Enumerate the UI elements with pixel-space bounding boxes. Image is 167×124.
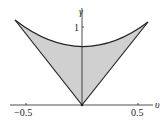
chart: γ 1 υ −0.5 0.5 <box>0 0 167 124</box>
plot-area <box>0 0 167 124</box>
x-tick-label-pos: 0.5 <box>131 108 144 118</box>
y-axis-label: γ <box>79 7 83 17</box>
x-axis-label: υ <box>155 100 160 110</box>
y-tick-label-one: 1 <box>74 23 79 33</box>
origin-point <box>81 104 84 107</box>
x-tick-label-neg: −0.5 <box>14 108 32 118</box>
